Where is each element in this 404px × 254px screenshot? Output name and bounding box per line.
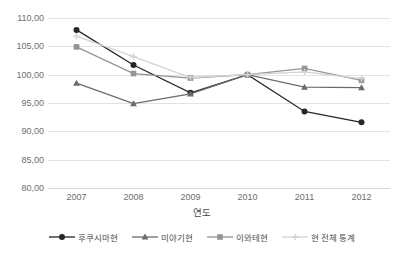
x-axis-tick-label: 2010	[237, 192, 257, 202]
chart-legend: 후쿠시마현미야기현이와테현현 전체 통계	[0, 231, 404, 243]
gridline	[48, 188, 390, 189]
data-point-marker	[291, 234, 297, 240]
data-point-marker	[73, 33, 79, 39]
y-axis-labels: 110,00105,00100,0095,0090,0085,0080,00	[0, 18, 44, 188]
x-axis-tick-label: 2009	[180, 192, 200, 202]
data-point-marker	[74, 27, 80, 33]
legend-marker-icon	[207, 232, 233, 242]
data-point-marker	[130, 53, 136, 59]
data-point-marker	[73, 80, 80, 86]
y-axis-tick-label: 90,00	[0, 126, 44, 136]
legend-marker-icon	[49, 232, 75, 242]
series-4	[73, 33, 364, 82]
line-chart: 110,00105,00100,0095,0090,0085,0080,00 2…	[0, 0, 404, 254]
plot-area	[48, 18, 390, 188]
legend-label: 현 전체 통계	[311, 231, 356, 243]
data-point-marker	[59, 234, 65, 240]
data-point-marker	[131, 71, 137, 77]
y-axis-tick-label: 85,00	[0, 155, 44, 165]
series-3	[74, 44, 365, 83]
legend-label: 이와테현	[236, 231, 268, 243]
data-point-marker	[131, 62, 137, 68]
data-point-marker	[302, 109, 308, 115]
x-axis-tick-label: 2012	[351, 192, 371, 202]
x-axis-tick-label: 2011	[295, 192, 314, 202]
x-axis-labels: 200720082009201020112012	[48, 190, 390, 206]
legend-marker-icon	[282, 232, 308, 242]
data-point-marker	[74, 44, 80, 50]
legend-label: 후쿠시마현	[78, 231, 118, 243]
y-axis-tick-label: 100,00	[0, 70, 44, 80]
legend-item[interactable]: 현 전체 통계	[282, 231, 356, 243]
legend-item[interactable]: 후쿠시마현	[49, 231, 118, 243]
y-axis-tick-label: 95,00	[0, 98, 44, 108]
legend-item[interactable]: 미야기현	[132, 231, 193, 243]
legend-label: 미야기현	[161, 231, 193, 243]
series-layer	[48, 18, 390, 188]
y-axis-tick-label: 105,00	[0, 41, 44, 51]
y-axis-tick-label: 110,00	[0, 13, 44, 23]
x-axis-tick-label: 2008	[123, 192, 143, 202]
y-axis-tick-label: 80,00	[0, 183, 44, 193]
series-line	[77, 75, 362, 104]
data-point-marker	[217, 234, 223, 240]
x-axis-title: 연도	[0, 205, 404, 219]
data-point-marker	[359, 119, 365, 125]
x-axis-tick-label: 2007	[66, 192, 86, 202]
legend-item[interactable]: 이와테현	[207, 231, 268, 243]
legend-marker-icon	[132, 232, 158, 242]
series-line	[77, 36, 362, 79]
